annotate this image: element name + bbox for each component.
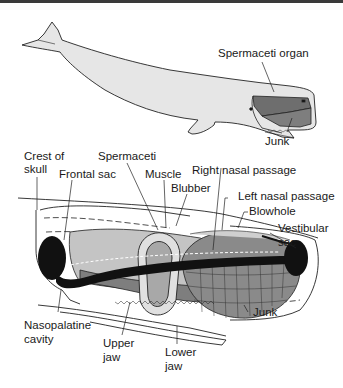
label-crest-of-skull-line1: Crest of [24,150,64,163]
label-right-nasal-passage: Right nasal passage [192,164,296,177]
label-nasopalatine-cavity-line1: Nasopalatine [24,319,91,332]
label-blowhole: Blowhole [249,205,296,218]
eye-dot [250,108,253,111]
label-muscle: Muscle [145,168,181,181]
label-junk-bottom: Junk [253,306,277,319]
label-junk-top: Junk [265,135,289,148]
label-vestibular-sac-line1: Vestibular [278,222,329,235]
label-crest-of-skull-line2: skull [24,163,47,176]
label-nasopalatine-cavity-line2: cavity [24,333,53,346]
label-left-nasal-passage: Left nasal passage [238,190,335,203]
label-spermaceti-organ: Spermaceti organ [218,47,309,60]
label-spermaceti: Spermaceti [98,150,156,163]
label-upper-jaw-line1: Upper [103,337,134,350]
label-vestibular-sac-line2: sac [278,236,296,249]
label-frontal-sac: Frontal sac [59,168,116,181]
frontal-sac-shape [38,236,66,280]
label-upper-jaw-line2: jaw [103,351,120,364]
label-lower-jaw-line2: jaw [165,360,182,373]
label-lower-jaw-line1: Lower [165,346,196,359]
label-blubber: Blubber [171,182,211,195]
